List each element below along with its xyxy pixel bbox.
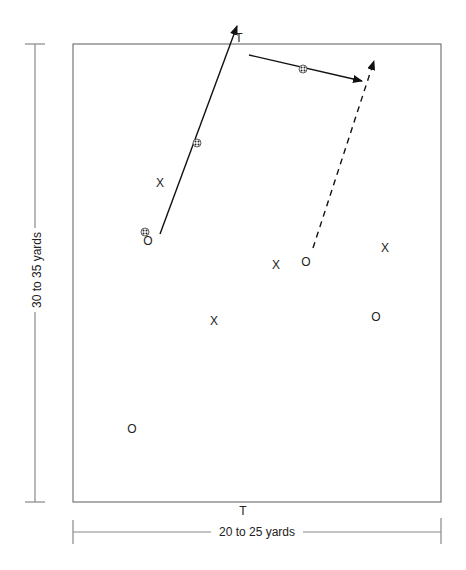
attacker-marker: O (127, 423, 136, 435)
attacker-marker: O (301, 256, 310, 268)
defender-marker: X (210, 315, 218, 327)
goal-bottom-label: T (239, 505, 246, 517)
defender-marker: X (272, 259, 280, 271)
drill-diagram (0, 0, 466, 570)
defender-marker: X (156, 177, 164, 189)
length-dimension-label: 30 to 35 yards (30, 228, 44, 312)
ball-icon (299, 65, 307, 73)
attacker-marker: O (143, 235, 152, 247)
goal-top-label: T (235, 32, 242, 44)
ball-icon (193, 139, 201, 147)
run-arrow-dashed (313, 61, 374, 248)
width-dimension-label: 20 to 25 yards (211, 525, 303, 539)
pass-arrow-1 (160, 26, 237, 234)
defender-marker: X (381, 242, 389, 254)
attacker-marker: O (371, 311, 380, 323)
